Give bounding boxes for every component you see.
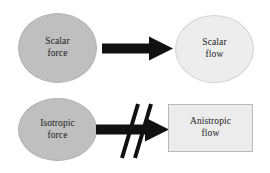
arrow-right-icon [102, 36, 174, 61]
node-scalar-flow-line1: Scalar [199, 37, 229, 49]
node-anistropic-flow-line2: flow [187, 128, 234, 140]
node-anistropic-flow-line1: Anistropic [187, 116, 234, 128]
node-scalar-force: Scalar force [18, 13, 97, 83]
node-scalar-force-line2: force [42, 48, 72, 60]
node-anistropic-flow-label: Anistropic flow [187, 116, 234, 140]
node-scalar-flow: Scalar flow [175, 15, 254, 83]
node-anistropic-flow: Anistropic flow [168, 104, 253, 152]
not-equal-icon [116, 101, 156, 161]
node-isotropic-force-label: Isotropic force [37, 118, 78, 142]
node-scalar-flow-line2: flow [199, 49, 229, 61]
node-isotropic-force-line1: Isotropic [37, 118, 78, 130]
node-scalar-flow-label: Scalar flow [199, 37, 229, 61]
node-isotropic-force: Isotropic force [18, 98, 97, 161]
diagram-canvas: Scalar force Scalar flow Isotropic force [0, 0, 270, 173]
node-scalar-force-label: Scalar force [42, 36, 72, 60]
blocked-slashes [116, 101, 156, 161]
node-scalar-force-line1: Scalar [42, 36, 72, 48]
arrow-scalar [102, 36, 174, 61]
node-isotropic-force-line2: force [37, 130, 78, 142]
